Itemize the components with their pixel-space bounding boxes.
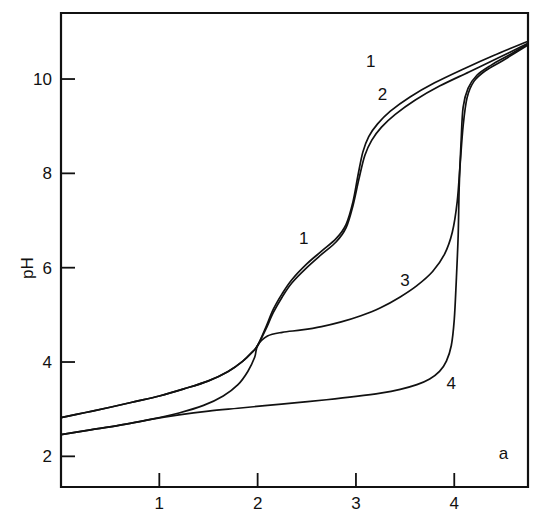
y-tick-label-8: 8 xyxy=(43,164,52,183)
y-tick-label-4: 4 xyxy=(43,353,52,372)
annotation-a-5: a xyxy=(499,444,509,463)
x-tick-label-4: 4 xyxy=(450,494,459,513)
y-tick-label-6: 6 xyxy=(43,259,52,278)
axis-tick-labels: 2468101234 xyxy=(33,70,459,513)
curve-4 xyxy=(61,44,528,435)
annotation-1-0: 1 xyxy=(299,229,308,248)
chart-figure: 2468101234 11234a pH xyxy=(0,0,544,517)
x-tick-label-2: 2 xyxy=(253,494,262,513)
curve-annotations: 11234a xyxy=(299,52,509,462)
y-tick-label-2: 2 xyxy=(43,447,52,466)
x-tick-label-1: 1 xyxy=(155,494,164,513)
x-tick-label-3: 3 xyxy=(351,494,360,513)
y-tick-label-10: 10 xyxy=(33,70,52,89)
annotation-1-1: 1 xyxy=(366,52,375,71)
ph-titration-chart: 2468101234 11234a pH xyxy=(0,0,544,517)
curve-series xyxy=(61,41,528,434)
annotation-4-4: 4 xyxy=(447,374,456,393)
axis-titles: pH xyxy=(18,257,37,279)
annotation-2-2: 2 xyxy=(378,85,387,104)
y-axis-title: pH xyxy=(18,257,37,279)
annotation-3-3: 3 xyxy=(400,271,409,290)
